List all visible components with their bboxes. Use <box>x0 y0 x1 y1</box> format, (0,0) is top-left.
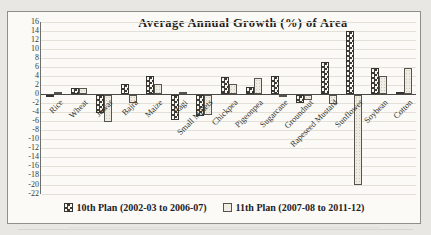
y-axis-tick-label: 0 <box>13 90 39 98</box>
bar-pigeonpea-series2 <box>254 78 262 94</box>
gridline-y8 <box>41 58 416 59</box>
category-label-rapeseed-mustard: Rapeseed Mustard <box>289 98 340 149</box>
category-label-bajra: Bajra <box>120 98 139 117</box>
bar-chickpea-series1 <box>221 77 229 94</box>
y-axis-tick-label: 4 <box>13 72 39 80</box>
category-label-cotton: Cotton <box>392 98 415 121</box>
checkered-swatch-icon <box>64 203 73 212</box>
y-axis-tick-label: 6 <box>13 63 39 71</box>
category-label-maize: Maize <box>143 98 164 119</box>
bar-chickpea-series2 <box>229 84 237 94</box>
y-axis-tick-label: 14 <box>13 27 39 35</box>
bar-ragi-series2 <box>179 92 187 94</box>
light-swatch-icon <box>223 203 232 212</box>
y-axis-tick-label: -2 <box>13 99 39 107</box>
bar-sunflower-series1 <box>346 31 354 94</box>
bar-soybean-series1 <box>371 68 379 94</box>
bar-wheat-series1 <box>71 88 79 94</box>
bar-rice-series1 <box>46 95 54 97</box>
y-axis-tick-label: -16 <box>13 162 39 170</box>
bar-sugarcane-series1 <box>271 76 279 94</box>
legend-item-11th-plan: 11th Plan (2007-08 to 2011-12) <box>223 202 365 213</box>
y-axis-tick-label: -20 <box>13 181 39 189</box>
y-axis-tick-label: -12 <box>13 144 39 152</box>
y-axis-tick-label: -22 <box>13 190 39 198</box>
y-axis-tick-label: 8 <box>13 54 39 62</box>
scan-edge-line <box>18 229 413 230</box>
bar-rice-series2 <box>54 92 62 94</box>
scan-smudge <box>68 227 380 228</box>
legend-label-10th-plan: 10th Plan (2002-03 to 2006-07) <box>77 202 207 213</box>
y-axis-tick-label: -10 <box>13 135 39 143</box>
y-axis-tick-label: -14 <box>13 153 39 161</box>
bar-maize-series1 <box>146 76 154 94</box>
bar-cotton-series2 <box>404 68 412 94</box>
gridline-y6 <box>41 67 416 68</box>
gridline-y12 <box>41 40 416 41</box>
chart-frame: Average Annual Growth (%) of Area -22-20… <box>7 11 421 224</box>
chart-title: Average Annual Growth (%) of Area <box>63 16 423 31</box>
gridline-y4 <box>41 76 416 77</box>
gridline-y10 <box>41 49 416 50</box>
bar-maize-series2 <box>154 84 162 94</box>
y-axis-tick-label: -18 <box>13 171 39 179</box>
scanned-chart-page: Average Annual Growth (%) of Area -22-20… <box>0 0 431 235</box>
y-axis-tick-label: 16 <box>13 18 39 26</box>
bar-rapeseed-mustard-series1 <box>321 62 329 94</box>
legend-label-11th-plan: 11th Plan (2007-08 to 2011-12) <box>236 202 365 213</box>
y-axis-tick-label: -4 <box>13 108 39 116</box>
bar-soybean-series2 <box>379 76 387 94</box>
y-axis-tick-label: -6 <box>13 117 39 125</box>
bar-cotton-series1 <box>396 92 404 94</box>
bar-bajra-series1 <box>121 84 129 94</box>
category-label-wheat: Wheat <box>68 98 90 120</box>
chart-legend: 10th Plan (2002-03 to 2006-07) 11th Plan… <box>8 202 420 213</box>
gridline-y14 <box>41 31 416 32</box>
y-axis-tick-label: 10 <box>13 45 39 53</box>
y-axis-tick-label: -8 <box>13 126 39 134</box>
y-axis-tick-label: 2 <box>13 81 39 89</box>
legend-item-10th-plan: 10th Plan (2002-03 to 2006-07) <box>64 202 207 213</box>
gridline-y-22 <box>41 194 416 195</box>
y-axis-tick-label: 12 <box>13 36 39 44</box>
bar-pigeonpea-series1 <box>246 87 254 94</box>
bar-wheat-series2 <box>79 88 87 94</box>
gridline-y16 <box>41 22 416 23</box>
y-axis-line <box>40 22 41 194</box>
